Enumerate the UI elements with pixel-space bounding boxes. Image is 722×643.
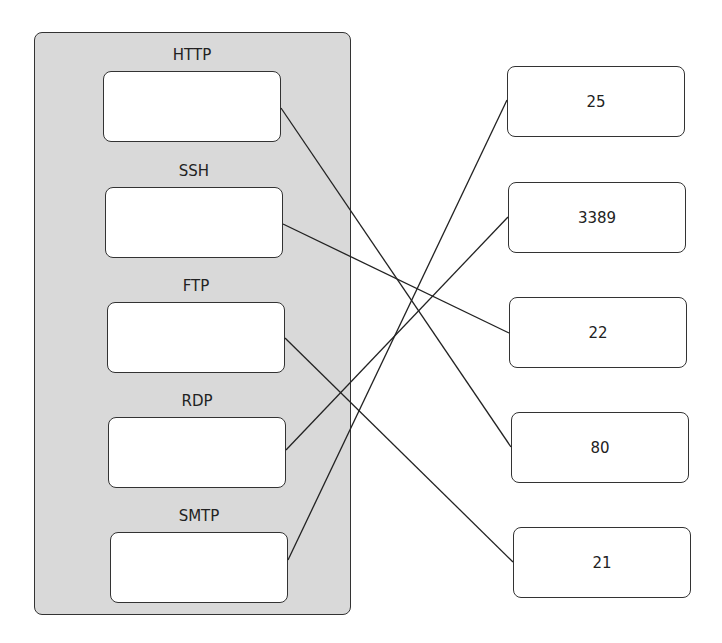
line-ftp-21: [285, 338, 513, 562]
line-ssh-22: [283, 224, 509, 333]
line-rdp-3389: [286, 217, 508, 450]
line-http-80: [281, 108, 511, 447]
connection-lines: [0, 0, 722, 643]
line-smtp-25: [288, 100, 507, 560]
